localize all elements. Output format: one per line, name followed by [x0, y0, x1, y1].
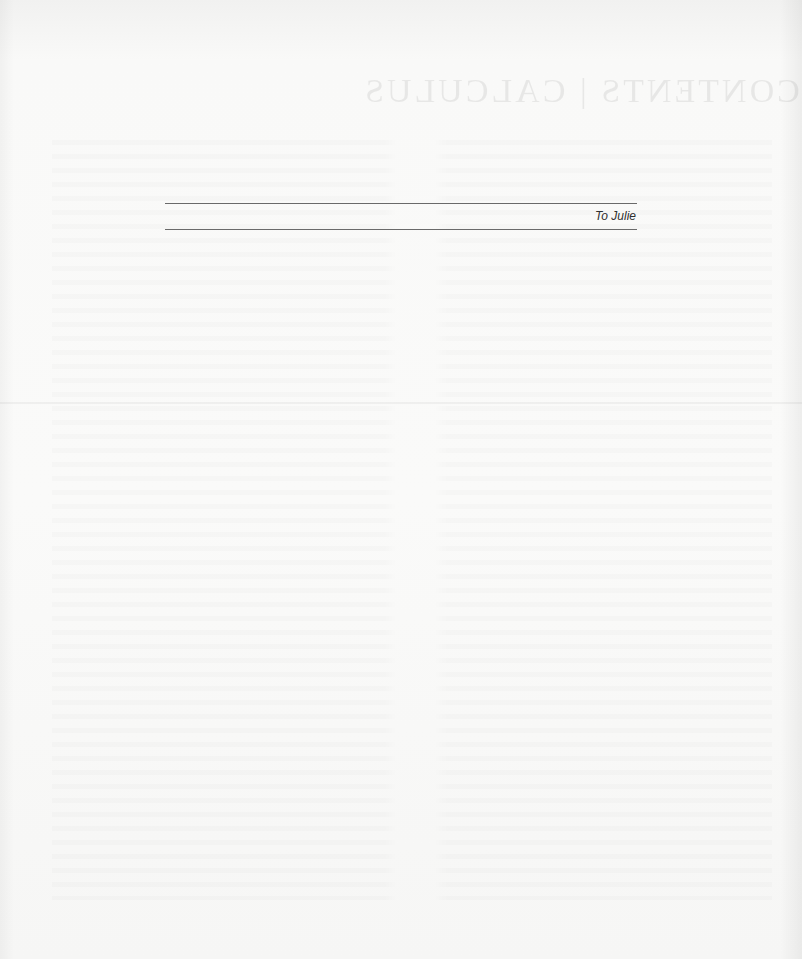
bottom-rule [165, 229, 637, 230]
bleed-through-heading: CONTENTS | CALCULUS [362, 72, 800, 110]
dedication-block: To Julie [165, 203, 637, 230]
bleed-through-text-lines [52, 140, 772, 900]
dedication-text: To Julie [595, 209, 636, 223]
page-crease [0, 402, 802, 404]
top-rule [165, 203, 637, 204]
bleed-through-layer: CONTENTS | CALCULUS [0, 0, 802, 959]
book-page: CONTENTS | CALCULUS To Julie [0, 0, 802, 959]
